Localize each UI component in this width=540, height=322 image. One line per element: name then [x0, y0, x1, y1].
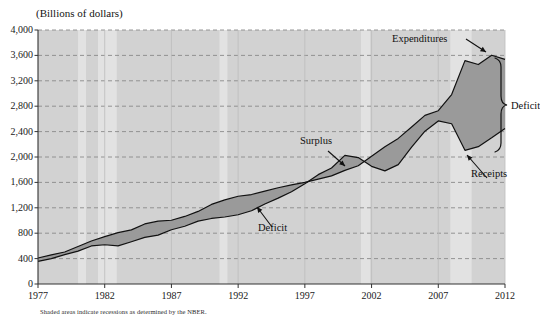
chart-root: (Billions of dollars) 4,0003,6003,2002,8… — [0, 0, 540, 322]
y-axis-tick-label: 2,400 — [0, 127, 33, 137]
y-axis-tick-label: 400 — [0, 254, 33, 264]
annotation-label-deficit-3: Deficit — [511, 100, 540, 111]
x-axis-tick-label: 1997 — [275, 291, 335, 301]
x-axis-tick-label: 1982 — [75, 291, 135, 301]
x-axis-tick-label: 2012 — [475, 291, 535, 301]
y-axis-tick-label: 0 — [0, 279, 33, 289]
y-axis-tick-label: 2,800 — [0, 101, 33, 111]
x-axis-tick-label: 1977 — [8, 291, 68, 301]
y-axis-tick-label: 1,200 — [0, 203, 33, 213]
chart-footnote: Shaded areas indicate recessions as dete… — [40, 308, 207, 315]
annotation-label-expenditures-0: Expenditures — [392, 33, 447, 44]
y-axis-tick-label: 1,600 — [0, 177, 33, 187]
y-axis-tick-label: 3,600 — [0, 50, 33, 60]
annotation-label-deficit-1: Deficit — [258, 222, 287, 233]
x-axis-tick-label: 2002 — [342, 291, 402, 301]
y-axis-tick-label: 3,200 — [0, 76, 33, 86]
annotation-label-receipts-4: Receipts — [471, 168, 507, 179]
x-axis-tick-label: 2007 — [408, 291, 468, 301]
x-axis-tick-label: 1992 — [208, 291, 268, 301]
y-axis-tick-label: 2,000 — [0, 152, 33, 162]
x-axis-tick-label: 1987 — [141, 291, 201, 301]
annotation-label-surplus-2: Surplus — [300, 135, 332, 146]
y-axis-tick-label: 4,000 — [0, 25, 33, 35]
chart-plot-area — [0, 0, 540, 322]
y-axis-tick-label: 800 — [0, 228, 33, 238]
